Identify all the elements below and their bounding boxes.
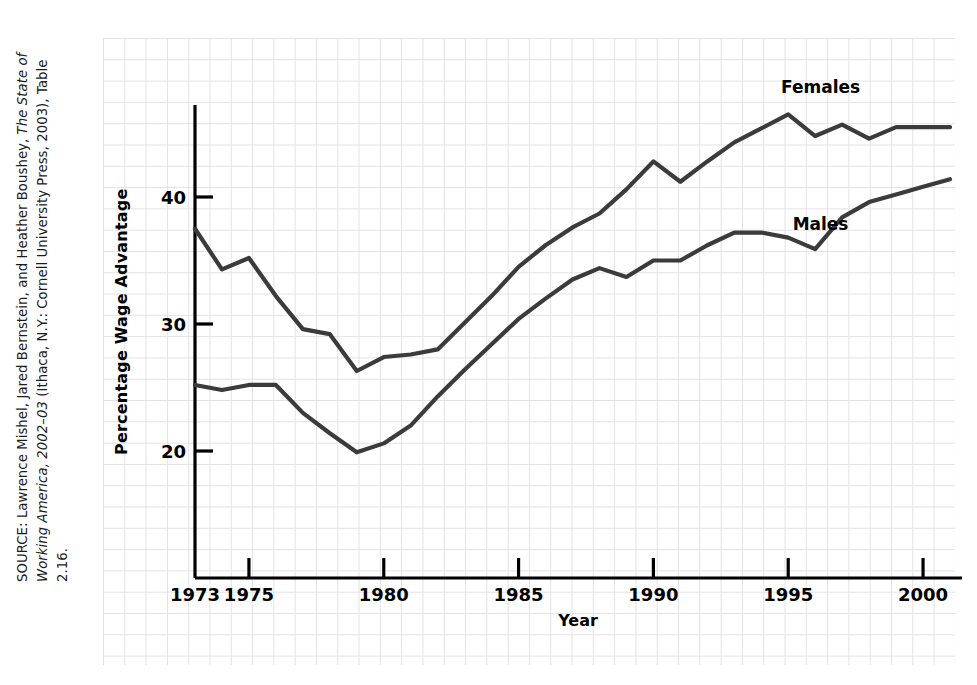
series-label-males: Males — [793, 214, 849, 234]
x-tick-label-1975: 1975 — [224, 584, 274, 605]
series-annotations: FemalesMales — [781, 77, 860, 234]
x-tick-label-1973: 1973 — [170, 584, 220, 605]
x-tick-label-2000: 2000 — [898, 584, 948, 605]
series-line-females — [195, 114, 950, 371]
y-tick-label-20: 20 — [161, 441, 186, 462]
y-tick-label-40: 40 — [161, 187, 186, 208]
x-axis-ticks: 1973197519801985199019952000 — [170, 558, 948, 605]
x-tick-label-1990: 1990 — [628, 584, 678, 605]
x-tick-label-1995: 1995 — [763, 584, 813, 605]
x-tick-label-1980: 1980 — [359, 584, 409, 605]
axes — [195, 105, 962, 578]
x-tick-label-1985: 1985 — [494, 584, 544, 605]
y-tick-label-30: 30 — [161, 314, 186, 335]
series-lines — [195, 114, 950, 452]
x-axis-title: Year — [557, 611, 598, 630]
y-axis-ticks: 203040 — [161, 187, 213, 462]
series-label-females: Females — [781, 77, 860, 97]
line-chart: 203040 1973197519801985199019952000 Fema… — [0, 0, 977, 685]
